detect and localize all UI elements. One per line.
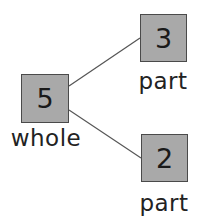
whole-label: whole — [8, 127, 84, 150]
whole-value: 5 — [36, 85, 53, 112]
part-2-value: 2 — [156, 145, 173, 172]
part-2-box: 2 — [141, 134, 188, 182]
whole-box: 5 — [21, 74, 69, 123]
part-2-label: part — [135, 192, 193, 215]
connector-whole-to-part-1 — [69, 38, 140, 86]
part-1-box: 3 — [140, 14, 187, 62]
part-1-value: 3 — [155, 25, 172, 52]
part-1-label: part — [134, 70, 192, 93]
